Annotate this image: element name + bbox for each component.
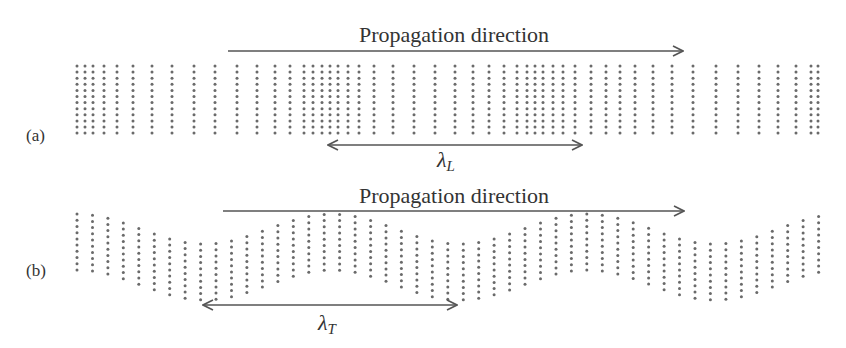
particle-dot — [132, 119, 135, 122]
particle-dot — [472, 101, 475, 104]
particle-dot — [552, 77, 555, 80]
particle-dot — [601, 232, 604, 235]
particle-dot — [392, 132, 395, 135]
particle-dot — [193, 119, 196, 122]
particle-dot — [534, 107, 537, 110]
particle-dot — [171, 113, 174, 116]
particle-dot — [274, 113, 277, 116]
particle-dot — [369, 250, 372, 253]
particle-dot — [472, 126, 475, 129]
particle-dot — [338, 256, 341, 259]
particle-dot — [153, 276, 156, 279]
particle-dot — [276, 249, 279, 252]
particle-dot — [493, 269, 496, 272]
particle-dot — [236, 95, 239, 98]
particle-dot — [601, 257, 604, 260]
particle-dot — [508, 251, 511, 254]
particle-dot — [508, 264, 511, 267]
particle-dot — [446, 261, 449, 264]
particle-dot — [214, 107, 217, 110]
particle-dot — [724, 248, 727, 251]
particle-dot — [574, 77, 577, 80]
particle-dot — [552, 107, 555, 110]
particle-dot — [616, 223, 619, 226]
particle-dot — [795, 71, 798, 74]
particle-dot — [585, 237, 588, 240]
particle-dot — [488, 71, 491, 74]
particle-dot — [616, 235, 619, 238]
particle-dot — [261, 279, 264, 282]
particle-dot — [274, 119, 277, 122]
panel-a-wavelength-label: λL — [436, 147, 455, 174]
particle-dot — [358, 132, 361, 135]
particle-dot — [758, 107, 761, 110]
particle-dot — [472, 65, 475, 68]
particle-dot — [671, 65, 674, 68]
particle-dot — [289, 126, 292, 129]
particle-dot — [758, 83, 761, 86]
particle-dot — [274, 101, 277, 104]
particle-dot — [321, 95, 324, 98]
particle-dot — [274, 83, 277, 86]
particle-dot — [817, 265, 820, 268]
particle-dot — [462, 255, 465, 258]
particle-dot — [373, 132, 376, 135]
particle-dot — [777, 119, 780, 122]
particle-dot — [647, 264, 650, 267]
particle-dot — [329, 77, 332, 80]
particle-dot — [810, 126, 813, 129]
particle-dot — [678, 262, 681, 265]
particle-dot — [431, 252, 434, 255]
particle-dot — [552, 101, 555, 104]
particle-dot — [817, 227, 820, 230]
particle-dot — [337, 77, 340, 80]
particle-dot — [92, 77, 95, 80]
particle-dot — [555, 273, 558, 276]
particle-dot — [373, 71, 376, 74]
particle-dot — [76, 225, 79, 228]
particle-dot — [321, 101, 324, 104]
particle-dot — [462, 249, 465, 252]
particle-dot — [312, 132, 315, 135]
particle-dot — [261, 236, 264, 239]
particle-dot — [503, 126, 506, 129]
particle-dot — [740, 283, 743, 286]
particle-dot — [663, 239, 666, 242]
particle-dot — [292, 231, 295, 234]
particle-dot — [562, 119, 565, 122]
particle-dot — [562, 113, 565, 116]
particle-dot — [385, 274, 388, 277]
particle-dot — [122, 246, 125, 249]
particle-dot — [542, 65, 545, 68]
particle-dot — [153, 264, 156, 267]
particle-dot — [153, 282, 156, 285]
particle-dot — [817, 221, 820, 224]
particle-dot — [103, 83, 106, 86]
particle-dot — [400, 248, 403, 251]
particle-dot — [555, 248, 558, 251]
particle-dot — [193, 101, 196, 104]
particle-dot — [245, 254, 248, 257]
particle-dot — [434, 107, 437, 110]
particle-dot — [392, 77, 395, 80]
particle-dot — [663, 257, 666, 260]
particle-dot — [555, 235, 558, 238]
particle-dot — [795, 65, 798, 68]
particle-dot — [103, 77, 106, 80]
particle-dot — [574, 65, 577, 68]
particle-dot — [724, 242, 727, 245]
particle-dot — [715, 89, 718, 92]
particle-dot — [634, 126, 637, 129]
particle-dot — [373, 101, 376, 104]
particle-dot — [215, 285, 218, 288]
particle-dot — [214, 71, 217, 74]
particle-dot — [539, 246, 542, 249]
particle-dot — [103, 101, 106, 104]
particle-dot — [413, 65, 416, 68]
particle-dot — [261, 248, 264, 251]
particle-dot — [137, 277, 140, 280]
particle-dot — [488, 113, 491, 116]
particle-dot — [462, 286, 465, 289]
particle-dot — [358, 113, 361, 116]
particle-dot — [84, 71, 87, 74]
